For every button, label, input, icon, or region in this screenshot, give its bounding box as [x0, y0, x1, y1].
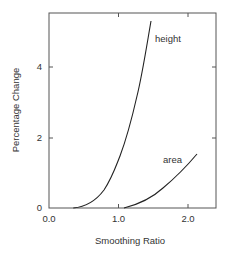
- y-tick-label-0: 0: [37, 202, 42, 213]
- x-tick-label-2: 2.0: [181, 213, 194, 224]
- y-axis-label: Percentage Change: [10, 68, 21, 153]
- y-ticks: [49, 67, 216, 138]
- plot-frame: [49, 13, 216, 208]
- y-tick-label-4: 4: [37, 61, 42, 72]
- x-tick-label-0: 0.0: [42, 213, 55, 224]
- x-axis-label: Smoothing Ratio: [95, 235, 165, 246]
- y-tick-label-2: 2: [37, 132, 42, 143]
- series-area-line: [124, 154, 197, 208]
- series-height-line: [73, 21, 151, 208]
- x-tick-label-1: 1.0: [112, 213, 125, 224]
- series-label-area: area: [163, 154, 183, 165]
- series-label-height: height: [155, 33, 181, 44]
- chart: 0.0 1.0 2.0 0 2 4 Smoothing Ratio Percen…: [0, 0, 230, 254]
